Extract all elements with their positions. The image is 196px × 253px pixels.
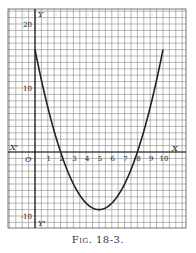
x-tick-label: 3 (72, 155, 76, 163)
axis-labels: 123456789102010-10OX'XYY' (9, 10, 178, 228)
x-tick-label: 9 (149, 155, 153, 163)
y-tick-label: -10 (21, 213, 32, 221)
x-neg-label: X' (9, 143, 18, 152)
x-tick-label: 4 (85, 155, 90, 163)
x-label: X (171, 144, 178, 153)
y-neg-label: Y' (38, 219, 45, 228)
figure-caption: Fig. 18-3. (0, 234, 196, 245)
y-tick-label: 20 (23, 21, 32, 29)
x-tick-label: 8 (136, 155, 140, 163)
parabola-chart: 123456789102010-10OX'XYY' (0, 0, 196, 232)
origin-label: O (25, 155, 32, 164)
y-label: Y (38, 10, 44, 19)
x-tick-label: 1 (47, 155, 51, 163)
x-tick-label: 6 (111, 155, 116, 163)
x-tick-label: 7 (123, 155, 127, 163)
y-tick-label: 10 (23, 85, 32, 93)
x-tick-label: 10 (160, 155, 169, 163)
axes (8, 9, 186, 228)
x-tick-label: 5 (98, 155, 102, 163)
